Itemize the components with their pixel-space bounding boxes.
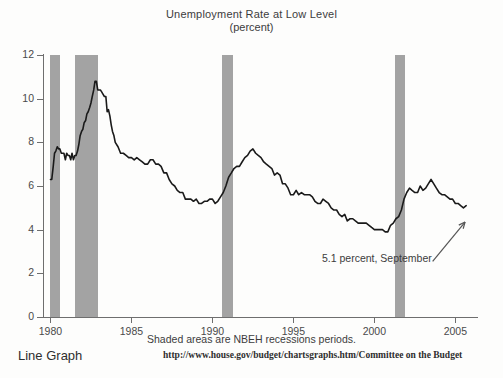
annotation-arrow bbox=[0, 0, 503, 378]
line-graph-label: Line Graph bbox=[18, 348, 82, 363]
source-url: http://www.house.gov/budget/chartsgraphs… bbox=[163, 350, 462, 360]
chart-page: Unemployment Rate at Low Level (percent)… bbox=[0, 0, 503, 378]
annotation-label: 5.1 percent, September bbox=[322, 252, 432, 264]
chart-caption: Shaded areas are NBEH recessions periods… bbox=[0, 333, 503, 345]
